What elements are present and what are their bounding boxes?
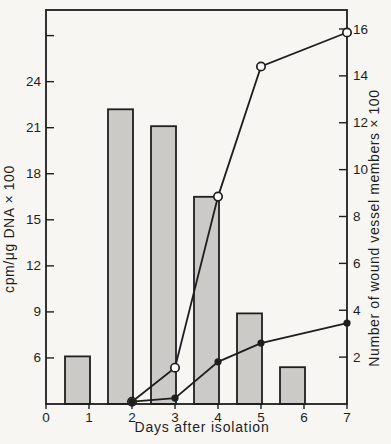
bar-day-3 <box>151 126 176 404</box>
right-tick-label-8: 8 <box>353 209 361 224</box>
open-circle-marker-day-5 <box>257 62 265 70</box>
left-tick-label-12: 12 <box>26 258 41 273</box>
bar-day-1 <box>65 356 90 404</box>
bar-day-5 <box>237 313 262 404</box>
filled-circle-marker-day-5 <box>257 340 264 347</box>
right-tick-label-4: 4 <box>353 303 361 318</box>
bar-day-4 <box>194 197 219 404</box>
left-tick-label-15: 15 <box>26 212 41 227</box>
x-tick-label-0: 0 <box>42 410 50 425</box>
right-axis-title: Number of wound vessel members × 100 <box>366 89 382 366</box>
filled-circle-marker-day-3 <box>171 395 178 402</box>
filled-circle-marker-day-2 <box>128 398 135 405</box>
right-tick-label-14: 14 <box>353 68 369 83</box>
x-tick-label-7: 7 <box>343 410 351 425</box>
right-tick-label-6: 6 <box>353 256 361 271</box>
chart-canvas: 69121518212424681012141601234567cpm/μg D… <box>0 0 391 444</box>
left-tick-label-21: 21 <box>26 120 41 135</box>
x-tick-label-6: 6 <box>300 410 308 425</box>
left-tick-label-24: 24 <box>26 74 42 89</box>
right-tick-label-16: 16 <box>353 22 368 37</box>
bar-day-2 <box>108 109 133 404</box>
x-axis-title: Days after isolation <box>134 419 269 435</box>
scanned-chart-figure: 69121518212424681012141601234567cpm/μg D… <box>0 0 391 444</box>
right-tick-label-2: 2 <box>353 350 361 365</box>
open-circle-marker-day-3 <box>171 364 179 372</box>
left-axis-title: cpm/μg DNA × 100 <box>1 165 17 293</box>
left-tick-label-18: 18 <box>26 166 41 181</box>
left-tick-label-6: 6 <box>33 350 41 365</box>
x-tick-label-1: 1 <box>85 410 93 425</box>
filled-circle-marker-day-4 <box>214 358 221 365</box>
open-circle-marker-day-4 <box>214 192 222 200</box>
filled-circle-marker-day-7 <box>343 320 350 327</box>
left-tick-label-9: 9 <box>33 304 41 319</box>
bar-day-6 <box>280 367 305 404</box>
open-circle-marker-day-7 <box>343 28 351 36</box>
